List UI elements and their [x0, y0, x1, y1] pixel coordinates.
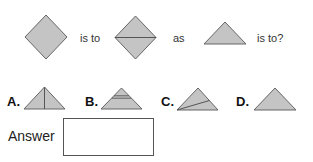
is-to-question-text: is to? [257, 33, 283, 44]
triangle-figure [204, 22, 246, 44]
diamond-figure [25, 15, 67, 59]
option-c-figure[interactable] [177, 88, 218, 110]
answer-input-box[interactable] [63, 118, 154, 156]
option-b-figure[interactable] [101, 88, 142, 109]
diamond-with-line-figure [115, 16, 156, 59]
option-a-label[interactable]: A. [7, 95, 20, 108]
answer-label: Answer [8, 129, 55, 143]
option-a-figure[interactable] [24, 87, 65, 109]
is-to-text: is to [80, 33, 100, 44]
option-c-label[interactable]: C. [161, 95, 174, 108]
option-d-label[interactable]: D. [236, 95, 249, 108]
as-text: as [173, 33, 185, 44]
option-d-figure[interactable] [254, 88, 296, 110]
option-b-label[interactable]: B. [85, 95, 98, 108]
